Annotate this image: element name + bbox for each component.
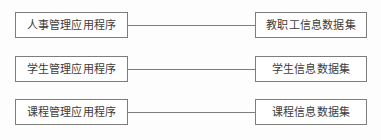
diagram-row: 课程管理应用程序 课程信息数据集 [0,99,381,127]
dataset-node-label: 学生信息数据集 [272,64,350,75]
application-node-label: 人事管理应用程序 [27,20,117,31]
dataset-node-label: 教职工信息数据集 [266,20,356,31]
connector-line [128,112,255,113]
connector-line [128,69,255,70]
application-node[interactable]: 人事管理应用程序 [15,12,128,38]
dataset-node-label: 课程信息数据集 [272,107,350,118]
application-node-label: 学生管理应用程序 [27,64,117,75]
connector-line [128,25,255,26]
dataset-node[interactable]: 课程信息数据集 [255,99,367,125]
application-node[interactable]: 课程管理应用程序 [15,99,128,125]
application-node-label: 课程管理应用程序 [27,107,117,118]
diagram-row: 学生管理应用程序 学生信息数据集 [0,56,381,84]
dataset-node[interactable]: 学生信息数据集 [255,56,367,82]
application-node[interactable]: 学生管理应用程序 [15,56,128,82]
diagram-row: 人事管理应用程序 教职工信息数据集 [0,12,381,40]
relationship-diagram: 人事管理应用程序 教职工信息数据集 学生管理应用程序 学生信息数据集 课程管理应… [0,0,381,140]
dataset-node[interactable]: 教职工信息数据集 [255,12,367,38]
